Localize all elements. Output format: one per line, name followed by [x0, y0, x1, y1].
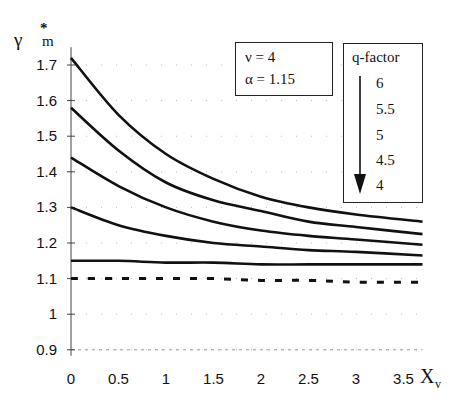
q-factor-legend: q-factor 6 5.5 5 4.5 4 — [343, 43, 423, 203]
x-tick-label: 0 — [67, 370, 75, 387]
y-tick-label: 1 — [49, 305, 57, 322]
x-tick-label: 1.5 — [203, 370, 224, 387]
x-axis-label-sub: v — [435, 377, 441, 391]
legend-item-4-5: 4.5 — [376, 152, 395, 169]
y-tick-label: 1.6 — [36, 92, 57, 109]
legend-item-4: 4 — [376, 177, 384, 194]
x-axis-title: X v — [420, 365, 441, 391]
x-tick-label: 3 — [352, 370, 360, 387]
param-nu: ν = 4 — [245, 49, 275, 66]
legend-title: q-factor — [352, 49, 399, 66]
x-tick-label: 3.5 — [393, 370, 414, 387]
y-tick-label: 1.4 — [36, 163, 57, 180]
x-tick-label: 0.5 — [108, 370, 129, 387]
y-tick-label: 1.2 — [36, 234, 57, 251]
y-tick-label: 1.5 — [36, 127, 57, 144]
y-axis-label-gamma: γ — [13, 29, 22, 50]
series-line — [71, 278, 423, 282]
parameters-box: ν = 4 α = 1.15 — [235, 42, 333, 96]
y-tick-label: 0.9 — [36, 341, 57, 358]
y-axis-label-sub: m — [42, 33, 54, 49]
arrow-down-icon — [354, 76, 366, 194]
y-tick-label: 1.3 — [36, 198, 57, 215]
param-alpha: α = 1.15 — [245, 71, 295, 88]
y-tick-label: 1.7 — [36, 56, 57, 73]
x-tick-label: 2 — [257, 370, 265, 387]
legend-item-5-5: 5.5 — [376, 101, 395, 118]
series-line — [71, 261, 423, 265]
series-line — [71, 207, 423, 255]
y-axis-title: γ * m — [13, 20, 54, 50]
legend-item-5: 5 — [376, 127, 384, 144]
x-tick-label: 1 — [162, 370, 170, 387]
legend-item-6: 6 — [376, 75, 384, 92]
x-tick-label: 2.5 — [298, 370, 319, 387]
y-tick-label: 1.1 — [36, 270, 57, 287]
x-axis-label-x: X — [420, 365, 435, 387]
